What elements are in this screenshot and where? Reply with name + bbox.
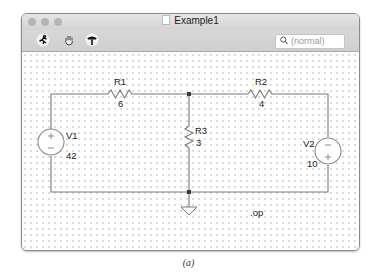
- search-input[interactable]: (normal): [275, 34, 345, 49]
- r2-value-label[interactable]: 4: [259, 99, 264, 109]
- resistor-r3: [185, 94, 193, 192]
- resistor-r1: [108, 90, 135, 98]
- junction-node: [187, 92, 191, 96]
- resistor-r2: [248, 90, 275, 98]
- schematic-canvas[interactable]: R1 6 R2 4 R3 3 V1 42 V2 10 .op: [22, 52, 359, 250]
- probe-hammer-icon[interactable]: [85, 33, 99, 47]
- halt-hand-icon[interactable]: [62, 33, 76, 47]
- voltage-source-v1: [38, 129, 64, 155]
- junction-node: [187, 190, 191, 194]
- v1-value-label[interactable]: 42: [66, 151, 77, 161]
- figure-caption: (a): [0, 257, 377, 268]
- wire: [51, 94, 108, 129]
- ground-icon: [181, 207, 197, 215]
- search-icon: [280, 35, 288, 48]
- r3-value-label[interactable]: 3: [196, 138, 201, 148]
- ltspice-window: Example1 (normal): [21, 13, 360, 251]
- v2-ref-label[interactable]: V2: [303, 139, 315, 149]
- r3-ref-label[interactable]: R3: [195, 126, 207, 136]
- run-icon[interactable]: [36, 33, 50, 47]
- document-icon: [162, 15, 170, 25]
- r1-value-label[interactable]: 6: [118, 99, 123, 109]
- window-title: Example1: [22, 15, 359, 26]
- r1-ref-label[interactable]: R1: [114, 77, 126, 87]
- toolbar: (normal): [22, 30, 359, 52]
- title-bar: Example1: [22, 14, 359, 30]
- v2-value-label[interactable]: 10: [307, 159, 318, 169]
- voltage-source-v2: [315, 138, 341, 164]
- r2-ref-label[interactable]: R2: [255, 77, 267, 87]
- v1-ref-label[interactable]: V1: [66, 131, 78, 141]
- op-directive[interactable]: .op: [250, 208, 263, 218]
